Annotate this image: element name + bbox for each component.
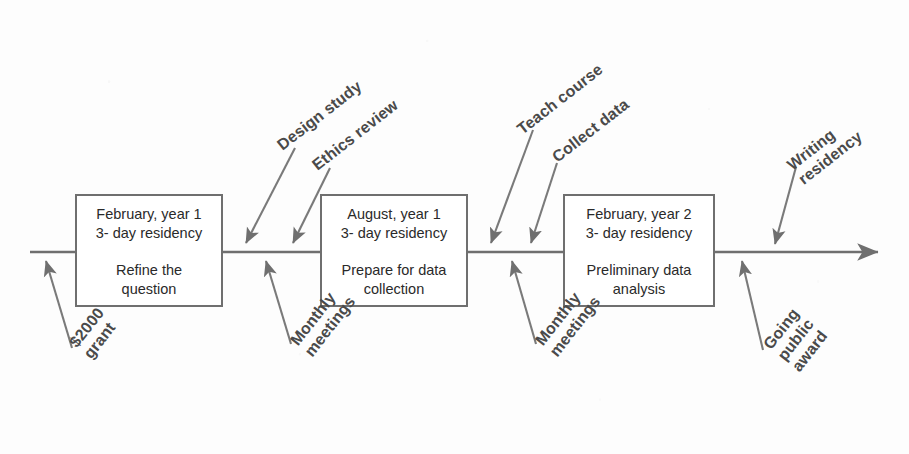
arrow-teach-course [491, 130, 533, 243]
milestone-2-when: August, year 1 3- day residency [322, 205, 466, 244]
milestone-1-what: Refine the question [77, 261, 221, 300]
arrow-monthly-meetings-2 [512, 261, 536, 344]
arrow-going-public-award [742, 261, 763, 350]
timeline-diagram: February, year 1 3- day residency Refine… [0, 0, 909, 454]
milestone-box-1: February, year 1 3- day residency Refine… [75, 194, 223, 307]
arrow-writing-residency [775, 167, 796, 244]
milestone-3-when: February, year 2 3- day residency [565, 205, 713, 244]
arrow-collect-data [531, 163, 557, 243]
arrow-design-study [246, 148, 295, 243]
arrow-grant [46, 261, 72, 348]
milestone-1-when: February, year 1 3- day residency [77, 205, 221, 244]
arrow-monthly-meetings-1 [266, 261, 291, 344]
